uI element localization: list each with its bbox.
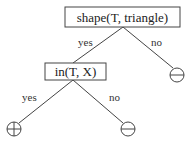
node-root-label: shape(T, triangle)	[77, 10, 168, 25]
decision-tree-diagram: yes no yes no shape(T, triangle) in(T, X…	[0, 0, 196, 144]
edge-root-no	[123, 27, 173, 68]
circled-plus-icon	[7, 122, 21, 136]
edge-label-root-no: no	[151, 36, 163, 48]
edge-label-inner-no: no	[109, 91, 121, 103]
node-inner-label: in(T, X)	[55, 64, 97, 79]
circled-minus-icon	[121, 122, 135, 136]
node-root: shape(T, triangle)	[65, 7, 180, 27]
circled-minus-icon	[170, 68, 184, 82]
node-inner: in(T, X)	[45, 63, 106, 80]
edge-label-inner-yes: yes	[22, 91, 37, 103]
edge-label-root-yes: yes	[78, 36, 93, 48]
